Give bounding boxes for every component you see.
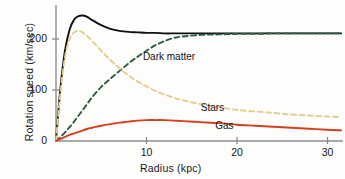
series-line-dark-matter: [56, 33, 341, 141]
series-line-stars: [56, 31, 341, 141]
x-axis-title: Radius (kpc): [140, 162, 201, 174]
y-axis-tick-label: 0: [0, 134, 47, 146]
chart-plot-area: [0, 0, 345, 179]
y-axis-tick-label: 100: [0, 83, 47, 95]
x-axis-tick-label: 10: [133, 146, 161, 158]
series-line-gas: [56, 120, 341, 141]
x-axis-tick-label: 30: [314, 146, 342, 158]
x-axis-tick-label: 20: [223, 146, 251, 158]
y-axis-tick-label: 200: [0, 32, 47, 44]
rotation-curve-chart: Rotation speed (km/sec) Radius (kpc) 010…: [0, 0, 345, 179]
series-label-dark-matter: Dark matter: [143, 51, 195, 62]
series-label-stars: Stars: [201, 102, 224, 113]
series-label-gas: Gas: [215, 120, 233, 131]
